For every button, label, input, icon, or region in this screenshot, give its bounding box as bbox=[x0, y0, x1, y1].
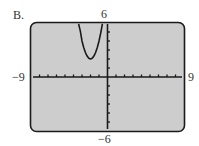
calculator-screen bbox=[0, 0, 199, 146]
